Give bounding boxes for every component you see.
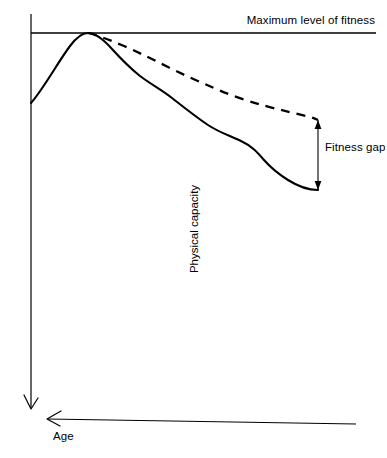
x-axis-label: Age	[53, 430, 74, 442]
untrained-decline-curve	[31, 33, 318, 190]
trained-decline-curve	[88, 33, 318, 120]
y-axis-label: Physical capacity	[188, 185, 200, 273]
figure-root: Maximum level of fitness Fitness gap Age…	[0, 0, 387, 458]
fitness-gap-label: Fitness gap	[325, 141, 386, 153]
fitness-gap-arrowhead-top-icon	[315, 120, 322, 129]
fitness-gap-arrowhead-bottom-icon	[315, 181, 322, 190]
max-fitness-label: Maximum level of fitness	[247, 14, 375, 26]
x-axis-line	[48, 419, 356, 424]
